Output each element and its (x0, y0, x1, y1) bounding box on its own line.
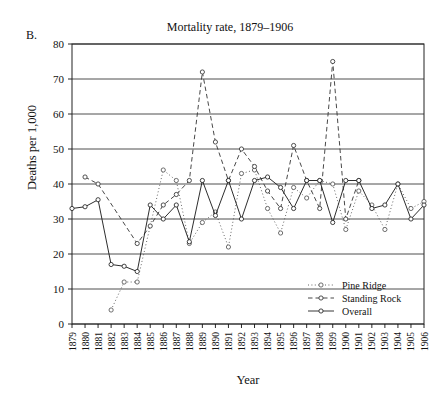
y-tick-label: 70 (53, 73, 65, 85)
x-tick-label: 1899 (328, 332, 338, 351)
data-point-pine-ridge (357, 189, 361, 193)
data-point-pine-ridge (161, 168, 165, 172)
data-point-overall (331, 220, 335, 224)
y-tick-label: 20 (53, 248, 65, 260)
data-point-overall (135, 269, 139, 273)
y-tick-label: 80 (53, 38, 65, 50)
legend-label-pine-ridge: Pine Ridge (342, 280, 387, 291)
data-point-overall (161, 217, 165, 221)
data-point-overall (70, 206, 74, 210)
data-point-standing-rock (148, 224, 152, 228)
x-tick-label: 1902 (367, 332, 377, 351)
data-point-standing-rock (344, 217, 348, 221)
data-point-overall (344, 178, 348, 182)
x-tick-label: 1890 (211, 332, 221, 351)
x-tick-label: 1892 (237, 332, 247, 351)
data-point-overall (278, 185, 282, 189)
data-point-overall (422, 203, 426, 207)
x-axis-label: Year (72, 373, 424, 388)
x-tick-label: 1882 (107, 332, 117, 351)
data-point-overall (396, 182, 400, 186)
data-point-overall (213, 213, 217, 217)
x-tick-label: 1880 (81, 332, 91, 351)
legend-marker-pine-ridge (319, 283, 323, 287)
data-point-overall (122, 264, 126, 268)
data-point-overall (305, 178, 309, 182)
data-point-standing-rock (239, 147, 243, 151)
data-point-standing-rock (174, 192, 178, 196)
x-tick-label: 1881 (94, 332, 104, 351)
y-tick-label: 40 (53, 178, 65, 190)
x-tick-label: 1903 (380, 332, 390, 351)
x-tick-label: 1879 (68, 332, 78, 351)
legend-label-standing-rock: Standing Rock (342, 293, 401, 304)
data-point-overall (200, 178, 204, 182)
x-tick-label: 1896 (289, 332, 299, 351)
data-point-overall (148, 203, 152, 207)
data-point-pine-ridge (409, 206, 413, 210)
data-point-standing-rock (187, 178, 191, 182)
x-tick-label: 1901 (354, 332, 364, 351)
data-point-overall (174, 203, 178, 207)
legend-marker-standing-rock (319, 296, 323, 300)
data-point-standing-rock (331, 59, 335, 63)
data-point-standing-rock (252, 164, 256, 168)
data-point-pine-ridge (383, 227, 387, 231)
x-tick-label: 1906 (420, 332, 430, 351)
y-axis-label: Deaths per 1,000 (25, 78, 40, 218)
data-point-standing-rock (96, 182, 100, 186)
data-point-standing-rock (135, 241, 139, 245)
x-tick-label: 1885 (146, 332, 156, 351)
data-point-overall (292, 206, 296, 210)
data-point-overall (83, 205, 87, 209)
data-point-pine-ridge (344, 227, 348, 231)
y-tick-label: 60 (53, 108, 65, 120)
x-tick-label: 1900 (341, 332, 351, 351)
data-point-overall (383, 203, 387, 207)
data-point-standing-rock (318, 206, 322, 210)
x-tick-label: 1905 (406, 332, 416, 351)
y-tick-label: 10 (53, 283, 65, 295)
data-point-overall (318, 178, 322, 182)
data-point-pine-ridge (305, 196, 309, 200)
data-point-overall (226, 178, 230, 182)
data-point-overall (239, 217, 243, 221)
data-point-pine-ridge (278, 231, 282, 235)
data-point-overall (409, 217, 413, 221)
data-point-standing-rock (213, 140, 217, 144)
data-point-pine-ridge (135, 280, 139, 284)
data-point-pine-ridge (239, 171, 243, 175)
x-tick-label: 1894 (263, 332, 273, 351)
data-point-standing-rock (200, 70, 204, 74)
data-point-pine-ridge (226, 245, 230, 249)
figure: B. Mortality rate, 1879–1906 01020304050… (0, 0, 447, 393)
legend-label-overall: Overall (342, 306, 372, 317)
x-tick-label: 1887 (172, 332, 182, 351)
x-tick-label: 1895 (276, 332, 286, 351)
data-point-overall (96, 198, 100, 202)
data-point-pine-ridge (292, 185, 296, 189)
x-tick-label: 1898 (315, 332, 325, 351)
data-point-overall (252, 178, 256, 182)
x-tick-label: 1886 (159, 332, 169, 351)
data-point-overall (187, 240, 191, 244)
x-tick-label: 1904 (393, 332, 403, 351)
x-tick-label: 1893 (250, 332, 260, 351)
data-point-overall (109, 262, 113, 266)
x-tick-label: 1888 (185, 332, 195, 351)
series-line-standing-rock (85, 62, 359, 244)
y-tick-label: 50 (53, 143, 65, 155)
data-point-pine-ridge (109, 308, 113, 312)
x-tick-label: 1883 (120, 332, 130, 351)
data-point-standing-rock (161, 203, 165, 207)
data-point-overall (265, 175, 269, 179)
data-point-pine-ridge (174, 178, 178, 182)
data-point-pine-ridge (122, 280, 126, 284)
data-point-standing-rock (83, 175, 87, 179)
data-point-pine-ridge (331, 182, 335, 186)
data-point-standing-rock (265, 189, 269, 193)
data-point-overall (357, 178, 361, 182)
data-point-pine-ridge (265, 206, 269, 210)
x-tick-label: 1891 (224, 332, 234, 351)
y-tick-label: 0 (59, 318, 65, 330)
